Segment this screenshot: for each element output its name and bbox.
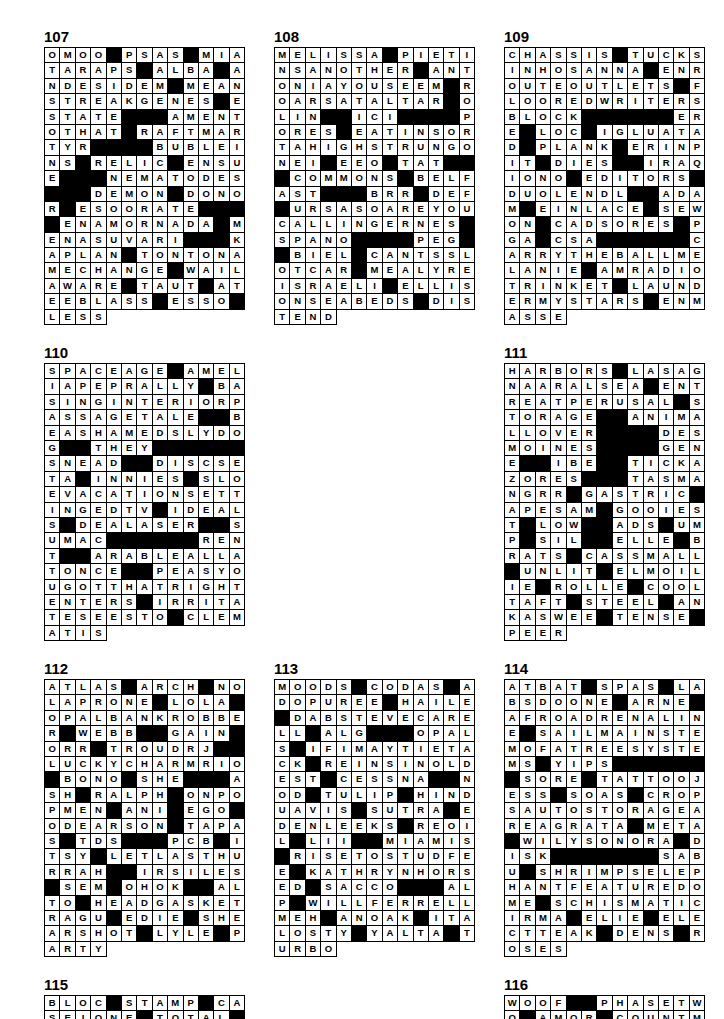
grid-letter-cell: L (383, 94, 398, 109)
grid-letter-cell: I (107, 79, 122, 94)
grid-letter-cell: N (60, 233, 75, 248)
grid-letter-cell: P (76, 379, 91, 394)
grid-letter-cell: L (551, 834, 566, 849)
grid-letter-cell: R (367, 865, 382, 880)
grid-letter-cell: L (168, 695, 183, 710)
grid-letter-cell: T (551, 880, 566, 895)
grid-letter-cell: D (505, 187, 520, 202)
grid-letter-cell: E (505, 125, 520, 140)
grid-block-cell (674, 395, 689, 410)
grid-letter-cell: E (444, 187, 459, 202)
grid-letter-cell: U (153, 742, 168, 757)
grid-letter-cell: T (582, 564, 597, 579)
grid-letter-cell: L (582, 379, 597, 394)
grid-letter-cell: E (460, 711, 475, 726)
grid-letter-cell: M (275, 48, 290, 63)
grid-letter-cell: A (60, 695, 75, 710)
grid-letter-cell: R (91, 788, 106, 803)
grid-letter-cell: B (551, 364, 566, 379)
grid-letter-cell: F (367, 896, 382, 911)
grid-letter-cell: G (520, 487, 535, 502)
grid-letter-cell: O (567, 1011, 582, 1019)
grid-letter-cell: A (659, 187, 674, 202)
grid-letter-cell: O (153, 610, 168, 625)
grid-letter-cell: N (275, 156, 290, 171)
grid-letter-cell: L (659, 248, 674, 263)
grid-letter-cell: C (505, 48, 520, 63)
grid-letter-cell: O (45, 48, 60, 63)
grid-block-cell (460, 217, 475, 232)
grid-letter-cell: A (505, 711, 520, 726)
grid-letter-cell: H (137, 757, 152, 772)
grid-letter-cell: D (153, 426, 168, 441)
grid-letter-cell: T (536, 79, 551, 94)
grid-letter-cell: T (460, 926, 475, 941)
grid-letter-cell: R (644, 140, 659, 155)
grid-block-cell (122, 279, 137, 294)
grid-letter-cell: E (613, 580, 628, 595)
grid-letter-cell: L (597, 580, 612, 595)
grid-letter-cell: I (429, 911, 444, 926)
grid-letter-cell: E (429, 171, 444, 186)
grid-letter-cell: L (567, 533, 582, 548)
grid-letter-cell: T (76, 942, 91, 957)
grid-letter-cell: R (536, 472, 551, 487)
grid-letter-cell: O (567, 79, 582, 94)
grid-letter-cell: D (184, 503, 199, 518)
grid-letter-cell: N (122, 472, 137, 487)
grid-letter-cell: O (306, 171, 321, 186)
grid-letter-cell: R (45, 911, 60, 926)
grid-block-cell (628, 156, 643, 171)
grid-letter-cell: O (659, 772, 674, 787)
grid-block-cell (444, 680, 459, 695)
grid-letter-cell: R (582, 364, 597, 379)
grid-letter-cell: M (137, 171, 152, 186)
grid-letter-cell: S (567, 294, 582, 309)
grid-letter-cell: U (582, 79, 597, 94)
puzzle-112: 112ATLASARCHNOLAPRONELOLAOPALBANKROBBERW… (44, 660, 274, 957)
grid-letter-cell: R (76, 140, 91, 155)
grid-letter-cell: M (690, 294, 705, 309)
grid-block-cell (214, 217, 229, 232)
grid-block-cell (122, 248, 137, 263)
grid-letter-cell: A (60, 426, 75, 441)
grid-letter-cell: S (628, 294, 643, 309)
grid-letter-cell: E (107, 187, 122, 202)
grid-letter-cell: E (91, 94, 106, 109)
grid-letter-cell: O (184, 711, 199, 726)
grid-letter-cell: O (551, 63, 566, 78)
grid-letter-cell: Y (367, 926, 382, 941)
grid-letter-cell: C (613, 1011, 628, 1019)
grid-letter-cell: O (674, 772, 689, 787)
grid-letter-cell: N (536, 171, 551, 186)
grid-letter-cell: A (674, 595, 689, 610)
grid-letter-cell: S (551, 503, 566, 518)
grid-letter-cell: G (444, 140, 459, 155)
grid-letter-cell: T (122, 503, 137, 518)
puzzle-number-label: 107 (44, 28, 274, 45)
grid-letter-cell: P (613, 865, 628, 880)
grid-letter-cell: R (690, 926, 705, 941)
grid-letter-cell: R (45, 865, 60, 880)
grid-letter-cell: A (214, 79, 229, 94)
grid-letter-cell: S (613, 896, 628, 911)
grid-letter-cell: O (230, 564, 245, 579)
grid-letter-cell: A (76, 865, 91, 880)
grid-letter-cell: L (199, 865, 214, 880)
grid-letter-cell: A (520, 595, 535, 610)
grid-letter-cell: U (520, 79, 535, 94)
grid-letter-cell: T (45, 564, 60, 579)
grid-block-cell (306, 788, 321, 803)
grid-letter-cell: D (107, 456, 122, 471)
grid-letter-cell: A (214, 279, 229, 294)
grid-letter-cell: I (45, 379, 60, 394)
grid-letter-cell: C (690, 896, 705, 911)
grid-letter-cell: A (137, 580, 152, 595)
grid-letter-cell: L (168, 379, 183, 394)
grid-letter-cell: S (567, 48, 582, 63)
grid-letter-cell: U (230, 156, 245, 171)
grid-letter-cell: S (597, 379, 612, 394)
grid-letter-cell: U (321, 695, 336, 710)
grid-letter-cell: R (414, 896, 429, 911)
grid-letter-cell: L (674, 680, 689, 695)
